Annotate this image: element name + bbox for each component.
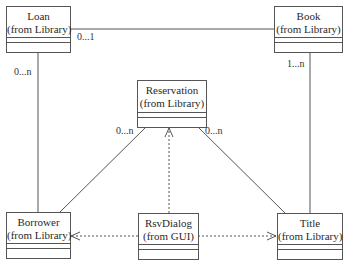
- class-rsvdialog-package: (from GUI): [139, 230, 198, 243]
- class-borrower[interactable]: Borrower (from Library): [6, 212, 71, 259]
- class-reservation[interactable]: Reservation (from Library): [137, 80, 207, 128]
- class-reservation-operations: [138, 118, 206, 127]
- class-book-header: Book (from Library): [275, 7, 342, 38]
- class-title[interactable]: Title (from Library): [277, 213, 343, 260]
- class-loan[interactable]: Loan (from Library): [6, 6, 71, 53]
- class-rsvdialog[interactable]: RsvDialog (from GUI): [138, 213, 199, 260]
- class-book[interactable]: Book (from Library): [274, 6, 343, 53]
- class-reservation-header: Reservation (from Library): [138, 81, 206, 113]
- multiplicity-loan-book: 0...1: [77, 31, 95, 42]
- class-title-header: Title (from Library): [278, 214, 342, 245]
- multiplicity-loan-borrower: 0...n: [14, 66, 32, 77]
- class-book-name: Book: [275, 10, 342, 23]
- uml-class-diagram: Loan (from Library) Book (from Library) …: [0, 0, 347, 269]
- multiplicity-reservation-title: 0...n: [205, 125, 223, 136]
- class-rsvdialog-header: RsvDialog (from GUI): [139, 214, 198, 245]
- class-loan-package: (from Library): [7, 23, 70, 36]
- class-book-package: (from Library): [275, 23, 342, 36]
- association-reservation-title: [198, 127, 285, 213]
- class-reservation-name: Reservation: [138, 84, 206, 97]
- class-reservation-package: (from Library): [138, 97, 206, 110]
- class-borrower-operations: [7, 249, 70, 258]
- association-reservation-borrower: [60, 127, 146, 212]
- multiplicity-reservation-borrower: 0...n: [116, 125, 134, 136]
- class-title-name: Title: [278, 217, 342, 230]
- class-rsvdialog-name: RsvDialog: [139, 217, 198, 230]
- class-title-package: (from Library): [278, 230, 342, 243]
- multiplicity-book-title: 1...n: [287, 58, 305, 69]
- class-loan-header: Loan (from Library): [7, 7, 70, 38]
- class-loan-name: Loan: [7, 10, 70, 23]
- class-borrower-name: Borrower: [7, 216, 70, 229]
- class-book-operations: [275, 43, 342, 52]
- class-borrower-package: (from Library): [7, 229, 70, 242]
- class-loan-operations: [7, 43, 70, 52]
- class-borrower-header: Borrower (from Library): [7, 213, 70, 244]
- class-rsvdialog-operations: [139, 250, 198, 259]
- class-title-operations: [278, 250, 342, 259]
